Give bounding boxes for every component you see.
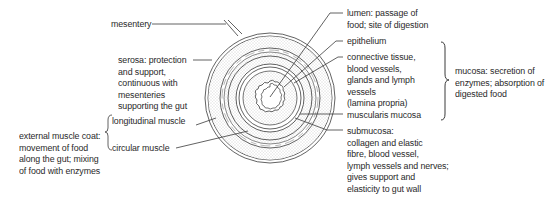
label-serosa: serosa: protection and support, continuo… [118,54,187,112]
label-lumen: lumen: passage of food; site of digestio… [347,7,428,30]
label-external-muscle-coat: external muscle coat: movement of food a… [19,130,100,176]
label-lamina-propria: connective tissue, blood vessels, glands… [347,51,416,109]
mucosa-bracket [441,42,449,120]
label-mucosa: mucosa: secretion of enzymes; absorption… [455,65,544,100]
gut-cross-section-diagram [0,0,560,214]
label-mesentery: mesentery [111,18,151,30]
external-muscle-coat-bracket [105,115,112,150]
label-longitudinal-muscle: longitudinal muscle [112,115,185,127]
label-muscularis-mucosa: muscularis mucosa [347,109,421,121]
label-submucosa: submucosa: collagen and elastic fibre, b… [347,125,449,195]
label-epithelium: epithelium [347,35,386,47]
label-circular-muscle: circular muscle [112,142,169,154]
